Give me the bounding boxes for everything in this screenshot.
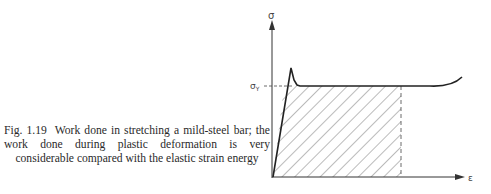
x-axis-label: ε <box>468 173 473 183</box>
stress-strain-chart: σ ε σY <box>0 0 491 194</box>
y-axis-arrow-icon <box>269 20 275 30</box>
yield-label: σY <box>250 81 260 92</box>
work-area <box>273 86 401 177</box>
y-axis-label: σ <box>268 10 275 21</box>
x-axis-arrow-icon <box>455 174 465 180</box>
